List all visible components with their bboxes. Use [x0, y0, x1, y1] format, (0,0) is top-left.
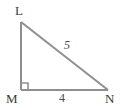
side-label-hypotenuse: 5 — [64, 39, 70, 51]
vertex-label-M: M — [6, 92, 18, 105]
side-label-base: 4 — [59, 92, 65, 104]
right-triangle-figure: L M N 5 4 — [0, 0, 120, 108]
right-angle-square-icon — [21, 83, 28, 90]
vertex-label-N: N — [105, 92, 114, 105]
triangle-side-LN — [21, 22, 108, 90]
vertex-label-L: L — [15, 4, 23, 17]
